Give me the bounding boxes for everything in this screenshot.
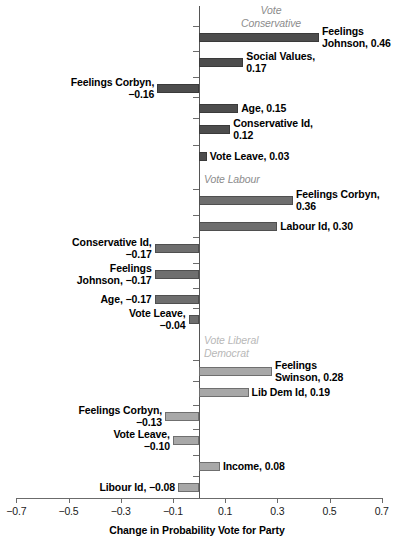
y-axis-tick bbox=[193, 97, 199, 98]
y-axis-tick bbox=[193, 360, 199, 361]
y-axis-tick bbox=[193, 308, 199, 309]
bar bbox=[199, 33, 319, 42]
bar-value-label: Labour Id, 0.30 bbox=[280, 221, 392, 233]
bar-value-label: Conservative Id, −0.17 bbox=[0, 237, 152, 260]
x-axis-tick bbox=[173, 498, 174, 503]
bar-value-label: Income, 0.08 bbox=[223, 461, 392, 473]
y-axis-tick bbox=[193, 455, 199, 456]
x-axis-tick bbox=[330, 498, 331, 503]
bar bbox=[155, 244, 199, 253]
bar bbox=[199, 196, 293, 205]
x-axis-tick-label: −0.7 bbox=[0, 505, 36, 517]
bar-value-label: Feelings Corbyn, −0.16 bbox=[0, 77, 154, 100]
bar bbox=[199, 58, 243, 67]
horizontal-bar-chart: Feelings Johnson, 0.46Social Values, 0.1… bbox=[0, 0, 394, 548]
y-axis-tick bbox=[193, 476, 199, 477]
x-axis-tick-label: 0.1 bbox=[205, 505, 245, 517]
y-axis-tick bbox=[193, 215, 199, 216]
x-axis-tick bbox=[16, 498, 17, 503]
y-axis-tick bbox=[193, 189, 199, 190]
y-axis-tick bbox=[193, 429, 199, 430]
y-axis-tick bbox=[193, 263, 199, 264]
x-axis-tick-label: −0.1 bbox=[153, 505, 193, 517]
bar bbox=[199, 104, 238, 113]
bar-value-label: Feelings Johnson, 0.46 bbox=[322, 26, 392, 49]
bar-value-label: Feelings Corbyn, 0.36 bbox=[296, 189, 392, 212]
y-axis-tick bbox=[193, 288, 199, 289]
bar bbox=[199, 222, 277, 231]
bar-value-label: Feelings Corbyn, −0.13 bbox=[0, 405, 162, 428]
bar bbox=[199, 125, 230, 134]
bar bbox=[173, 436, 199, 445]
x-axis-tick bbox=[121, 498, 122, 503]
x-axis-tick bbox=[382, 498, 383, 503]
y-axis-tick bbox=[193, 51, 199, 52]
y-axis-tick bbox=[193, 237, 199, 238]
bar bbox=[157, 84, 199, 93]
y-axis-tick bbox=[193, 77, 199, 78]
x-axis-title: Change in Probability Vote for Party bbox=[0, 524, 394, 536]
bar-value-label: Vote Leave, −0.10 bbox=[0, 429, 170, 452]
x-axis-tick-label: −0.5 bbox=[49, 505, 89, 517]
x-axis-tick-label: 0.3 bbox=[257, 505, 297, 517]
bar bbox=[155, 270, 199, 279]
y-axis-tick bbox=[193, 118, 199, 119]
bar-value-label: Vote Leave, 0.03 bbox=[210, 151, 392, 163]
x-axis-tick-label: 0.7 bbox=[362, 505, 394, 517]
bar-value-label: Age, 0.15 bbox=[241, 103, 392, 115]
group-header-vote-conservative: Vote Conservative bbox=[216, 4, 326, 29]
group-header-vote-labour: Vote Labour bbox=[204, 173, 354, 186]
y-axis-tick bbox=[193, 26, 199, 27]
bar bbox=[199, 367, 272, 376]
bar-value-label: Conservative Id, 0.12 bbox=[233, 118, 392, 141]
bar-value-label: Social Values, 0.17 bbox=[246, 51, 392, 74]
bar bbox=[165, 412, 199, 421]
bar-value-label: Feelings Swinson, 0.28 bbox=[275, 360, 392, 383]
bar-value-label: Vote Leave, −0.04 bbox=[0, 308, 186, 331]
bar bbox=[178, 483, 199, 492]
bar-value-label: Lib Dem Id, 0.19 bbox=[252, 387, 392, 399]
x-axis-tick bbox=[225, 498, 226, 503]
zero-baseline-axis bbox=[199, 6, 200, 498]
x-axis-line bbox=[17, 498, 383, 499]
bar bbox=[199, 388, 249, 397]
x-axis-tick bbox=[69, 498, 70, 503]
x-axis-tick-label: −0.3 bbox=[101, 505, 141, 517]
x-axis-tick-label: 0.5 bbox=[310, 505, 350, 517]
bar bbox=[199, 462, 220, 471]
bar bbox=[189, 315, 199, 324]
bar bbox=[199, 152, 207, 161]
x-axis-tick bbox=[277, 498, 278, 503]
y-axis-tick bbox=[193, 145, 199, 146]
group-header-vote-liberal-democrat: Vote Liberal Democrat bbox=[204, 334, 334, 359]
y-axis-tick bbox=[193, 381, 199, 382]
bar-value-label: Libour Id, −0.08 bbox=[0, 482, 175, 494]
y-axis-tick bbox=[193, 405, 199, 406]
bar-value-label: Age, −0.17 bbox=[0, 294, 152, 306]
bar bbox=[155, 295, 199, 304]
bar-value-label: Feelings Johnson, −0.17 bbox=[0, 263, 152, 286]
